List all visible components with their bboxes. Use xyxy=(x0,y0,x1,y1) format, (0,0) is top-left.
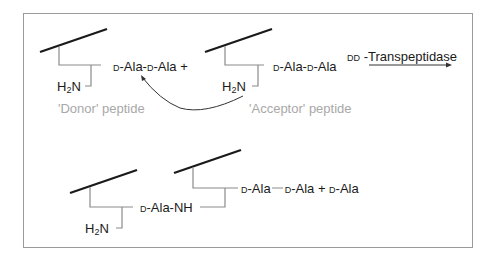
acceptor-lysine-branch xyxy=(252,65,258,86)
enzyme-name: -Transpeptidase xyxy=(364,49,457,64)
plus-sign: + xyxy=(318,181,326,196)
acceptor-stem xyxy=(225,46,264,65)
glycan-strand-bottom-left xyxy=(70,170,137,193)
arrowhead-icon xyxy=(141,75,146,81)
donor-peptide-label: 'Donor' peptide xyxy=(58,102,145,115)
released-ala-text: -Ala xyxy=(336,181,359,196)
acceptor-amine: H2N xyxy=(222,80,246,95)
bottom-amine: H2N xyxy=(85,222,109,237)
amine-h: H xyxy=(222,79,231,94)
glycan-strand-bottom-right xyxy=(174,150,241,173)
amine-h: H xyxy=(85,221,94,236)
bottom-right-stem xyxy=(193,167,238,188)
crosslink-label: D-Ala-NH xyxy=(140,201,193,214)
ala-text: -Ala xyxy=(248,181,271,196)
crosslink-branch xyxy=(200,188,225,207)
plus-sign: + xyxy=(180,59,188,74)
ala-text: -Ala xyxy=(313,59,336,74)
donor-chain: D-Ala-D-Ala + xyxy=(113,60,188,73)
dd-prefix: DD xyxy=(347,53,360,63)
donor-lysine-branch xyxy=(85,65,91,86)
amine-n: N xyxy=(99,221,108,236)
ala-nh-text: -Ala-NH xyxy=(147,200,193,215)
glycan-strand-donor xyxy=(40,29,107,52)
ala-text: -Ala- xyxy=(280,59,307,74)
bottom-left-lysine-branch xyxy=(116,207,122,228)
donor-amine: H2N xyxy=(57,80,81,95)
ala-text: -Ala xyxy=(153,59,176,74)
amine-h: H xyxy=(57,79,66,94)
acceptor-chain: D-Ala-D-Ala xyxy=(273,60,337,73)
amine-n: N xyxy=(236,79,245,94)
enzyme-label: DD -Transpeptidase xyxy=(347,50,457,63)
diagram-lines xyxy=(0,0,494,258)
amine-n: N xyxy=(71,79,80,94)
bottom-product-chain: D-AlaD-Ala + D-Ala xyxy=(241,182,359,195)
glycan-strand-acceptor xyxy=(205,29,272,52)
acceptor-peptide-label: 'Acceptor' peptide xyxy=(249,102,352,115)
ala-text: -Ala xyxy=(291,181,314,196)
bottom-left-stem xyxy=(90,187,133,207)
ala-text: -Ala- xyxy=(120,59,147,74)
donor-stem xyxy=(59,47,101,65)
